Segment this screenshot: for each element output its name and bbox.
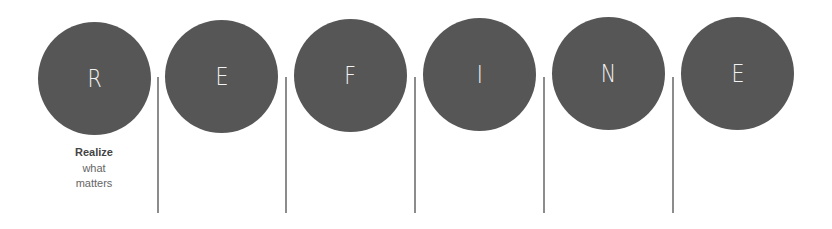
letter-r: R — [87, 66, 101, 91]
letter-f: F — [345, 63, 357, 88]
refine-acronym-diagram: R E F I N E Realize what matters — [0, 0, 832, 229]
letter-e-2: E — [731, 61, 744, 86]
caption-title: Realize — [44, 145, 144, 161]
caption-line-1: what — [44, 161, 144, 177]
circle-r: R — [38, 22, 151, 135]
divider-2 — [285, 77, 287, 213]
letter-i: I — [476, 62, 482, 87]
letter-n: N — [601, 61, 616, 86]
circle-i: I — [423, 18, 536, 131]
divider-5 — [672, 77, 674, 213]
circle-e-2: E — [681, 17, 794, 130]
circle-e-1: E — [165, 20, 278, 133]
letter-e-1: E — [215, 64, 228, 89]
caption-line-2: matters — [44, 176, 144, 192]
circle-f: F — [294, 19, 407, 132]
divider-3 — [414, 77, 416, 213]
circle-n: N — [552, 17, 665, 130]
caption-r: Realize what matters — [44, 145, 144, 192]
divider-4 — [543, 77, 545, 213]
divider-1 — [157, 77, 159, 213]
